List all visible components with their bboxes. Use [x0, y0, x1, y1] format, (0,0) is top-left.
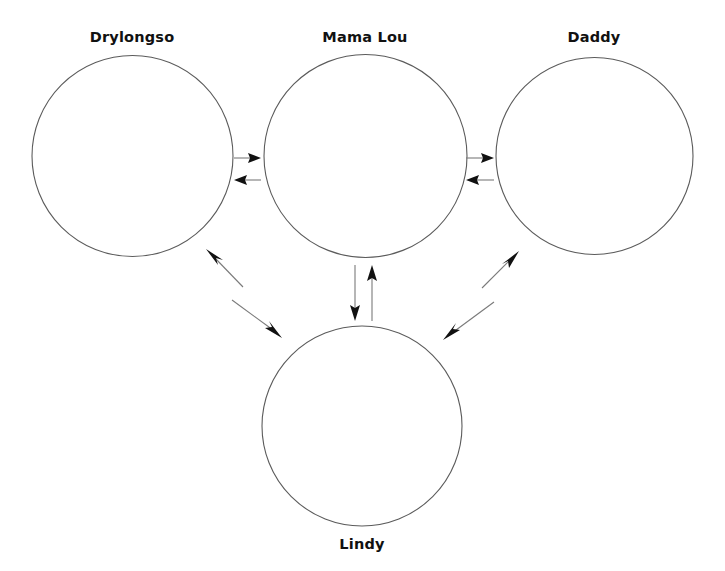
- arrowhead-down-left-icon: [443, 323, 460, 340]
- edge-lindy-to-mama-lou: [367, 265, 377, 321]
- edge-daddy-to-lindy: [443, 302, 494, 340]
- edge-mama-lou-to-lindy: [350, 265, 360, 321]
- edge-line: [482, 259, 511, 288]
- node-circle-drylongso[interactable]: [32, 56, 233, 257]
- relationship-diagram: Drylongso Mama Lou Daddy Lindy: [0, 0, 725, 571]
- arrowhead-up-left-icon: [206, 249, 223, 265]
- edge-lindy-to-drylongso: [206, 249, 243, 287]
- node-circle-lindy[interactable]: [262, 326, 462, 526]
- edge-line: [214, 257, 243, 287]
- edge-drylongso-to-mama-lou: [234, 153, 261, 163]
- node-circle-mama-lou[interactable]: [264, 55, 467, 258]
- edge-daddy-to-mama-lou: [466, 175, 494, 185]
- edge-line: [452, 302, 494, 333]
- edge-line: [232, 300, 273, 330]
- node-label-daddy: Daddy: [567, 30, 620, 45]
- edge-lindy-to-daddy: [482, 251, 519, 288]
- edge-mama-lou-to-drylongso: [234, 175, 261, 185]
- edge-drylongso-to-lindy: [232, 300, 282, 338]
- diagram-canvas: [0, 0, 725, 571]
- node-label-lindy: Lindy: [339, 537, 384, 552]
- node-circles: [32, 55, 693, 527]
- node-label-mama-lou: Mama Lou: [322, 30, 407, 45]
- node-label-drylongso: Drylongso: [90, 30, 175, 45]
- edge-mama-lou-to-daddy: [466, 153, 494, 163]
- node-circle-daddy[interactable]: [496, 58, 693, 255]
- arrowhead-down-right-icon: [265, 321, 282, 338]
